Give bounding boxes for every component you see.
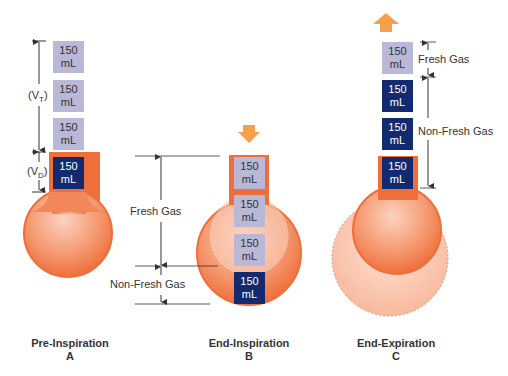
box-b4-nonfresh: 150 mL [234,272,265,304]
caption-b-title: End-Inspiration [199,337,299,350]
svg-text:150: 150 [388,160,406,172]
nonfresh-gas-dimension-b: Non-Fresh Gas [110,267,210,304]
vt-dimension-line: (VT) [28,41,48,152]
svg-text:150: 150 [240,160,258,172]
box-a2-fresh: 150 mL [53,80,84,112]
box-a1-fresh: 150 mL [53,41,84,73]
fresh-gas-dimension-c: Fresh Gas [418,42,470,77]
box-c2-nonfresh: 150 mL [382,80,413,112]
outflow-arrow-icon [373,13,399,32]
svg-text:mL: mL [390,173,405,185]
svg-text:(VT): (VT) [28,89,48,104]
svg-text:150: 150 [59,44,77,56]
caption-b: End-Inspiration B [199,337,299,363]
svg-text:mL: mL [390,96,405,108]
svg-text:150: 150 [388,83,406,95]
caption-c-letter: C [346,350,446,363]
svg-text:Fresh Gas: Fresh Gas [418,53,470,65]
box-b1-fresh: 150 mL [234,157,265,189]
svg-text:mL: mL [242,250,257,262]
caption-a-letter: A [20,350,120,363]
svg-text:mL: mL [242,288,257,300]
svg-text:Fresh Gas: Fresh Gas [130,205,182,217]
box-a3-fresh: 150 mL [53,118,84,150]
panel-c-end-expiration: 150 mL 150 mL 150 mL 150 mL Fresh Gas [332,13,494,316]
box-c3-nonfresh: 150 mL [382,118,413,150]
svg-text:mL: mL [61,134,76,146]
svg-text:150: 150 [240,237,258,249]
svg-text:150: 150 [59,83,77,95]
caption-a-title: Pre-Inspiration [20,337,120,350]
box-b2-fresh: 150 mL [234,195,265,227]
inflow-arrow-icon [238,125,260,143]
caption-c: End-Expiration C [346,337,446,363]
svg-text:mL: mL [242,173,257,185]
svg-text:mL: mL [61,96,76,108]
box-c4-nonfresh: 150 mL [382,157,413,189]
svg-text:mL: mL [390,58,405,70]
svg-text:Non-Fresh Gas: Non-Fresh Gas [418,125,494,137]
svg-text:mL: mL [390,134,405,146]
svg-text:150: 150 [59,121,77,133]
svg-text:150: 150 [388,121,406,133]
svg-text:Non-Fresh Gas: Non-Fresh Gas [110,278,186,290]
caption-b-letter: B [199,350,299,363]
box-b3-fresh: 150 mL [234,234,265,266]
svg-text:150: 150 [240,198,258,210]
svg-text:150: 150 [240,275,258,287]
svg-text:mL: mL [61,173,76,185]
svg-text:mL: mL [61,57,76,69]
caption-c-title: End-Expiration [346,337,446,350]
svg-text:150: 150 [59,160,77,172]
nonfresh-gas-dimension-c: Non-Fresh Gas [418,78,494,188]
caption-a: Pre-Inspiration A [20,337,120,363]
diagram-canvas: 150 mL 150 mL 150 mL 150 mL (VT) [0,0,508,376]
vd-dimension-line: (VD) [27,152,47,192]
panel-a-pre-inspiration: 150 mL 150 mL 150 mL 150 mL (VT) [24,41,112,277]
panel-b-end-inspiration: 150 mL 150 mL 150 mL 150 mL Fresh Gas [110,125,301,305]
svg-text:(VD): (VD) [27,165,47,180]
svg-text:150: 150 [388,45,406,57]
box-c1-fresh: 150 mL [382,42,413,74]
box-a4-nonfresh: 150 mL [53,157,84,189]
svg-text:mL: mL [242,211,257,223]
